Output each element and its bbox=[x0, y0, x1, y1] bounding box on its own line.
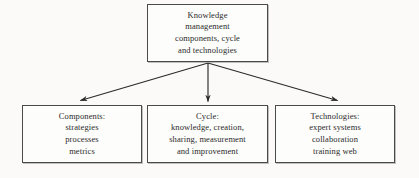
node-technologies: Technologies: expert systems collaborati… bbox=[275, 105, 395, 163]
node-cycle: Cycle: knowledge, creation, sharing, mea… bbox=[147, 105, 268, 163]
node-root-label: Knowledge management components, cycle a… bbox=[148, 10, 267, 56]
node-technologies-label: Technologies: expert systems collaborati… bbox=[276, 111, 394, 157]
node-components-label: Components: strategies processes metrics bbox=[23, 111, 141, 157]
connector-root-to-components bbox=[81, 63, 209, 101]
knowledge-management-diagram: Knowledge management components, cycle a… bbox=[0, 0, 419, 178]
connector-root-to-technologies bbox=[208, 63, 338, 101]
node-components: Components: strategies processes metrics bbox=[22, 105, 142, 163]
node-root-knowledge-management: Knowledge management components, cycle a… bbox=[147, 4, 268, 62]
node-cycle-label: Cycle: knowledge, creation, sharing, mea… bbox=[148, 111, 267, 157]
